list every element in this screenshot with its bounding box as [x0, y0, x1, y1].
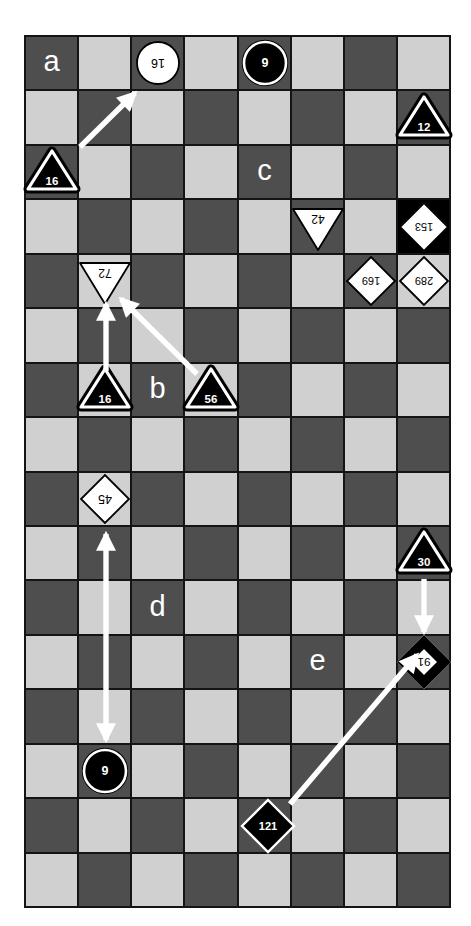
cell-r2c3[interactable]: [184, 145, 238, 199]
cell-r1c0[interactable]: [25, 90, 78, 145]
cell-r7c1[interactable]: [78, 417, 131, 472]
cell-r8c5[interactable]: [291, 472, 344, 526]
cell-r4c5[interactable]: [291, 254, 344, 308]
cell-r7c3[interactable]: [184, 417, 238, 472]
cell-r4c0[interactable]: [25, 254, 78, 308]
cell-r9c3[interactable]: [184, 526, 238, 580]
piece-triangle-30[interactable]: 30: [392, 521, 456, 585]
cell-r7c4[interactable]: [238, 417, 291, 472]
piece-triangle-16[interactable]: 16: [73, 358, 137, 422]
cell-r8c2[interactable]: [131, 472, 184, 526]
cell-r11c2[interactable]: [131, 635, 184, 689]
cell-r5c0[interactable]: [25, 308, 78, 363]
cell-r10c0[interactable]: [25, 580, 78, 635]
cell-r8c7[interactable]: [397, 472, 450, 526]
cell-r6c4[interactable]: [238, 363, 291, 417]
cell-r1c2[interactable]: [131, 90, 184, 145]
cell-r15c6[interactable]: [344, 853, 397, 907]
cell-r15c7[interactable]: [397, 853, 450, 907]
cell-r13c4[interactable]: [238, 744, 291, 798]
cell-r14c6[interactable]: [344, 798, 397, 853]
cell-r1c6[interactable]: [344, 90, 397, 145]
cell-r3c0[interactable]: [25, 199, 78, 254]
cell-r9c1[interactable]: [78, 526, 131, 580]
cell-r15c4[interactable]: [238, 853, 291, 907]
cell-r10c6[interactable]: [344, 580, 397, 635]
cell-r0c5[interactable]: [291, 36, 344, 90]
cell-r6c0[interactable]: [25, 363, 78, 417]
cell-r5c5[interactable]: [291, 308, 344, 363]
cell-r5c3[interactable]: [184, 308, 238, 363]
piece-diamond-121[interactable]: 121: [236, 794, 300, 858]
piece-triangle-12[interactable]: 12: [392, 86, 456, 150]
cell-r9c5[interactable]: [291, 526, 344, 580]
cell-r14c2[interactable]: [131, 798, 184, 853]
cell-r2c5[interactable]: [291, 145, 344, 199]
cell-r2c6[interactable]: [344, 145, 397, 199]
cell-r0c1[interactable]: [78, 36, 131, 90]
piece-circle-9[interactable]: 9: [73, 739, 137, 803]
piece-triangle-56[interactable]: 56: [179, 358, 243, 422]
cell-r12c4[interactable]: [238, 689, 291, 744]
cell-r7c7[interactable]: [397, 417, 450, 472]
cell-r7c2[interactable]: [131, 417, 184, 472]
cell-r10c3[interactable]: [184, 580, 238, 635]
piece-triangle-72[interactable]: 72: [73, 249, 137, 313]
cell-r12c2[interactable]: [131, 689, 184, 744]
cell-r3c1[interactable]: [78, 199, 131, 254]
cell-r1c3[interactable]: [184, 90, 238, 145]
cell-r12c6[interactable]: [344, 689, 397, 744]
cell-r15c0[interactable]: [25, 853, 78, 907]
cell-r5c6[interactable]: [344, 308, 397, 363]
cell-r6c7[interactable]: [397, 363, 450, 417]
cell-r10c5[interactable]: [291, 580, 344, 635]
cell-r0c7[interactable]: [397, 36, 450, 90]
cell-r11c4[interactable]: [238, 635, 291, 689]
cell-r13c3[interactable]: [184, 744, 238, 798]
cell-r10c1[interactable]: [78, 580, 131, 635]
cell-r9c4[interactable]: [238, 526, 291, 580]
cell-r11c0[interactable]: [25, 635, 78, 689]
cell-r8c3[interactable]: [184, 472, 238, 526]
cell-r5c2[interactable]: [131, 308, 184, 363]
cell-r15c5[interactable]: [291, 853, 344, 907]
cell-r10c4[interactable]: [238, 580, 291, 635]
piece-triangle-16[interactable]: 16: [20, 140, 84, 204]
cell-r6c6[interactable]: [344, 363, 397, 417]
cell-r8c4[interactable]: [238, 472, 291, 526]
piece-diamond-91[interactable]: 91: [392, 630, 456, 694]
cell-r2c7[interactable]: [397, 145, 450, 199]
cell-r10c7[interactable]: [397, 580, 450, 635]
cell-r14c7[interactable]: [397, 798, 450, 853]
cell-r3c4[interactable]: [238, 199, 291, 254]
cell-r3c6[interactable]: [344, 199, 397, 254]
cell-r7c6[interactable]: [344, 417, 397, 472]
piece-diamond-45[interactable]: 45: [73, 467, 137, 531]
piece-circle-9[interactable]: 9: [233, 31, 297, 95]
cell-r12c1[interactable]: [78, 689, 131, 744]
cell-r13c5[interactable]: [291, 744, 344, 798]
cell-r8c6[interactable]: [344, 472, 397, 526]
cell-r2c1[interactable]: [78, 145, 131, 199]
cell-r13c2[interactable]: [131, 744, 184, 798]
cell-r0c6[interactable]: [344, 36, 397, 90]
cell-r13c6[interactable]: [344, 744, 397, 798]
cell-r12c3[interactable]: [184, 689, 238, 744]
cell-r14c1[interactable]: [78, 798, 131, 853]
piece-diamond-289[interactable]: 289: [392, 249, 456, 313]
cell-r15c3[interactable]: [184, 853, 238, 907]
cell-r3c2[interactable]: [131, 199, 184, 254]
cell-r14c0[interactable]: [25, 798, 78, 853]
cell-r8c0[interactable]: [25, 472, 78, 526]
cell-r3c3[interactable]: [184, 199, 238, 254]
cell-r4c3[interactable]: [184, 254, 238, 308]
cell-r11c3[interactable]: [184, 635, 238, 689]
cell-r9c6[interactable]: [344, 526, 397, 580]
cell-r1c4[interactable]: [238, 90, 291, 145]
cell-r13c0[interactable]: [25, 744, 78, 798]
cell-r4c4[interactable]: [238, 254, 291, 308]
cell-r5c4[interactable]: [238, 308, 291, 363]
cell-r12c0[interactable]: [25, 689, 78, 744]
cell-r1c5[interactable]: [291, 90, 344, 145]
cell-r15c1[interactable]: [78, 853, 131, 907]
